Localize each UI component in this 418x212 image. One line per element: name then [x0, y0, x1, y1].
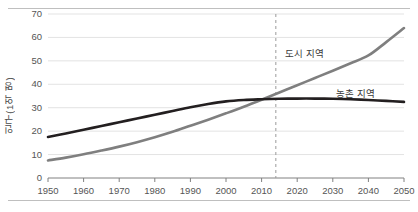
x-axis-tick-label: 2030 — [313, 185, 353, 196]
x-axis-tick-label: 2040 — [348, 185, 388, 196]
x-axis-tick-label: 1990 — [170, 185, 210, 196]
x-axis-tick-label: 2010 — [242, 185, 282, 196]
x-axis-tick-label: 1980 — [135, 185, 175, 196]
x-axis-tick-label: 2020 — [277, 185, 317, 196]
y-axis-tick-label: 20 — [20, 125, 42, 136]
y-axis-tick-label: 0 — [20, 172, 42, 183]
x-axis-tick-marks — [48, 178, 404, 182]
y-axis-tick-label: 50 — [20, 55, 42, 66]
rural-series-label: 농촌 지역 — [336, 86, 375, 100]
chart-figure: 인구(1억 명) 010203040506070 195019601970198… — [0, 0, 418, 212]
x-axis-tick-label: 2050 — [384, 185, 418, 196]
chart-canvas — [0, 0, 418, 212]
gridlines — [48, 14, 404, 155]
x-axis-tick-label: 2000 — [206, 185, 246, 196]
y-axis-tick-label: 10 — [20, 149, 42, 160]
y-axis-tick-label: 70 — [20, 8, 42, 19]
x-axis-tick-label: 1970 — [99, 185, 139, 196]
x-axis-tick-label: 1950 — [28, 185, 68, 196]
y-axis-tick-label: 60 — [20, 31, 42, 42]
urban-series-label: 도시 지역 — [285, 46, 324, 60]
plot-area — [0, 0, 418, 212]
y-axis-tick-label: 30 — [20, 102, 42, 113]
y-axis-tick-label: 40 — [20, 78, 42, 89]
x-axis-tick-label: 1960 — [64, 185, 104, 196]
